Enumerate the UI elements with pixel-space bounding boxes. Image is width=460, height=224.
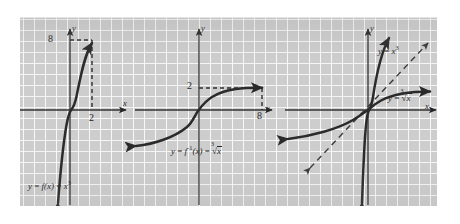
panel-right-identity-line [310,43,428,168]
panel-right-cubic-curve [362,38,389,203]
panel-right-radical-index: 3 [401,88,404,94]
panel-middle-label-arg: (x) [193,146,203,156]
panel-left-curve-label: y = f(x) = x3 [28,180,71,191]
panel-left-plot [20,29,126,205]
panel-middle-label-eq2: = [203,146,213,156]
panel-right-y-axis-label: y [370,24,374,33]
panel-middle-plot [135,29,272,205]
panel-middle-label-eq1: = [175,146,185,156]
plots-svg [20,17,437,206]
panel-right-radicand: x [407,93,411,103]
panel-middle-curve-label: y = f-1(x) = 3√x [171,145,222,156]
panel-middle-radical: 3√x [212,146,222,156]
panel-right-plot [285,29,436,205]
panel-right-radical: 3√x [402,93,412,103]
panel-left-label-fn: f(x) [42,181,55,191]
panel-middle-y-tick-label: 2 [187,81,192,91]
panel-left-label-eq2: = [54,181,64,191]
panel-left-x-tick-label: 2 [89,113,94,123]
panel-middle-x-tick-label: 8 [257,111,262,121]
panel-right-cubic-exponent: 3 [396,44,399,51]
panel-right-cubic-eq: = [382,46,392,56]
panel-middle-y-axis-label: y [201,24,205,33]
figure-panel-background: 8 2 x y y = f(x) = x3 2 8 x y y = f-1(x)… [20,17,437,206]
panel-left-label-eq1: = [32,181,42,191]
panel-left-cubic-curve [58,43,92,203]
panel-left-x-axis-label: x [123,99,127,108]
panel-right-x-axis-label: x [425,102,429,111]
panel-right-cuberoot-eq: = [392,93,402,103]
panel-left-y-tick-label: 8 [48,34,53,44]
panel-middle-radicand: x [217,146,221,156]
panel-right-cubic-label: y = x3 [378,45,399,56]
panel-left-y-axis-label: y [72,24,76,33]
textbook-figure: 8 2 x y y = f(x) = x3 2 8 x y y = f-1(x)… [0,0,460,224]
panel-middle-radical-index: 3 [211,141,214,147]
panel-left-label-exponent: 3 [68,179,71,186]
panel-right-cuberoot-label: y = 3√x [388,93,412,103]
panel-middle-x-axis-label: x [266,104,270,113]
